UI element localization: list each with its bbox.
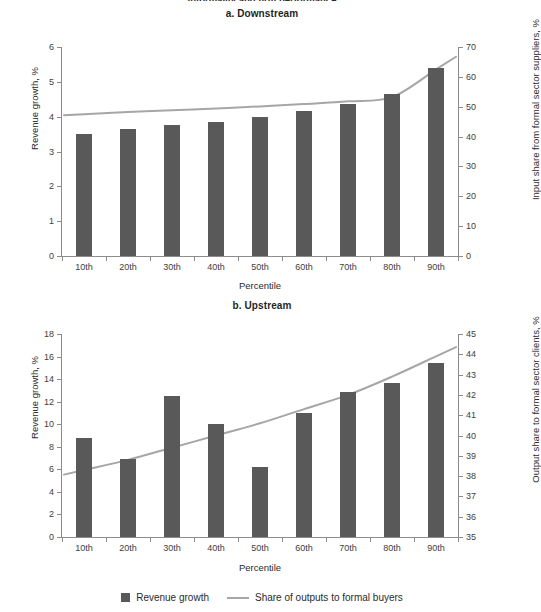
panel-upstream: b. Upstream Revenue growth, % Output sha… xyxy=(0,300,524,592)
panel-b-y2-tick-label: 43 xyxy=(466,370,476,380)
panel-a-x-tick-label: 20th xyxy=(119,262,137,272)
bar xyxy=(340,392,356,537)
panel-a-y-tick-label: 6 xyxy=(49,42,54,52)
panel-b-x-tick-label: 10th xyxy=(75,543,93,553)
panel-a-y2-tick-label: 50 xyxy=(466,102,476,112)
panel-a-x-tick xyxy=(62,257,63,261)
panel-b-y-tick xyxy=(57,469,61,470)
panel-b-x-tick xyxy=(414,538,415,542)
bar-swatch-icon xyxy=(121,593,130,602)
panel-b-y-tick-label: 16 xyxy=(44,352,54,362)
panel-a-x-tick xyxy=(150,257,151,261)
panel-a-x-axis xyxy=(61,256,459,257)
figure-legend: Revenue growth Share of outputs to forma… xyxy=(0,592,524,603)
panel-a-y2-tick xyxy=(459,166,463,167)
bar xyxy=(252,467,268,537)
panel-b-y2-tick xyxy=(459,517,463,518)
panel-b-y2-tick-label: 39 xyxy=(466,451,476,461)
panel-b-y2-tick xyxy=(459,436,463,437)
bar xyxy=(384,383,400,538)
panel-a-y-tick-label: 5 xyxy=(49,77,54,87)
panel-a-x-tick-label: 70th xyxy=(339,262,357,272)
panel-b-x-tick-label: 20th xyxy=(119,543,137,553)
panel-b-y-tick-label: 12 xyxy=(44,397,54,407)
panel-a-title: a. Downstream xyxy=(0,8,524,19)
bar xyxy=(164,125,180,256)
panel-b-y-tick xyxy=(57,402,61,403)
panel-b-x-tick xyxy=(458,538,459,542)
panel-b-y-tick xyxy=(57,514,61,515)
panel-a-y-tick xyxy=(57,47,61,48)
bar xyxy=(208,122,224,256)
panel-a-y2-axis-title: Input share from formal sector suppliers… xyxy=(530,3,541,217)
panel-b-y-tick xyxy=(57,424,61,425)
line-swatch-icon xyxy=(227,597,249,599)
bar xyxy=(76,134,92,256)
panel-a-y2-tick-label: 10 xyxy=(466,221,476,231)
bar xyxy=(164,396,180,537)
panel-a-y2-tick-label: 60 xyxy=(466,72,476,82)
panel-a-y2-tick-label: 30 xyxy=(466,161,476,171)
panel-a-x-axis-title: Percentile xyxy=(62,280,458,291)
bar xyxy=(76,438,92,537)
panel-b-y2-tick-label: 40 xyxy=(466,431,476,441)
panel-a-x-tick xyxy=(370,257,371,261)
panel-b-y-tick-label: 2 xyxy=(49,509,54,519)
panel-a-y-tick-label: 2 xyxy=(49,181,54,191)
panel-a-x-tick-label: 30th xyxy=(163,262,181,272)
panel-b-y2-tick-label: 42 xyxy=(466,390,476,400)
panel-b-x-tick xyxy=(326,538,327,542)
panel-b-y2-tick xyxy=(459,354,463,355)
panel-b-y2-tick-label: 35 xyxy=(466,532,476,542)
bar xyxy=(120,129,136,256)
panel-a-y2-tick-label: 20 xyxy=(466,191,476,201)
panel-b-y2-tick-label: 41 xyxy=(466,410,476,420)
bar xyxy=(384,94,400,256)
panel-a-x-tick xyxy=(194,257,195,261)
panel-a-y-tick xyxy=(57,82,61,83)
panel-b-y2-tick-label: 37 xyxy=(466,491,476,501)
panel-a-y-tick xyxy=(57,221,61,222)
panel-a-y2-tick xyxy=(459,256,463,257)
panel-b-y2-tick xyxy=(459,537,463,538)
panel-a-x-tick xyxy=(106,257,107,261)
panel-a-y-tick xyxy=(57,186,61,187)
panel-a-y-tick-label: 0 xyxy=(49,251,54,261)
panel-a-x-tick-label: 40th xyxy=(207,262,225,272)
panel-a-y-tick-label: 3 xyxy=(49,147,54,157)
panel-b-x-tick xyxy=(238,538,239,542)
panel-a-y2-tick xyxy=(459,107,463,108)
clipped-figure-title: Informality and firm performance xyxy=(0,0,524,1)
legend-label-revenue-growth: Revenue growth xyxy=(136,592,209,603)
bar xyxy=(296,413,312,537)
panel-b-y2-tick-label: 45 xyxy=(466,329,476,339)
panel-b-x-tick xyxy=(282,538,283,542)
panel-b-x-tick xyxy=(62,538,63,542)
panel-b-y-tick-label: 18 xyxy=(44,329,54,339)
panel-b-x-tick-label: 50th xyxy=(251,543,269,553)
panel-a-y-tick xyxy=(57,152,61,153)
panel-a-y-axis-title: Revenue growth, % xyxy=(29,29,40,189)
panel-b-x-tick xyxy=(150,538,151,542)
panel-b-y-tick-label: 8 xyxy=(49,442,54,452)
panel-b-y2-tick xyxy=(459,476,463,477)
panel-b-y2-tick xyxy=(459,496,463,497)
panel-a-y2-tick xyxy=(459,196,463,197)
panel-b-y-tick-label: 0 xyxy=(49,532,54,542)
panel-downstream: a. Downstream Revenue growth, % Input sh… xyxy=(0,8,524,300)
panel-a-y2-tick xyxy=(459,226,463,227)
legend-item-formal-share: Share of outputs to formal buyers xyxy=(227,592,403,603)
panel-b-y2-tick xyxy=(459,415,463,416)
panel-a-x-tick xyxy=(458,257,459,261)
bar xyxy=(428,68,444,256)
panel-b-y-tick xyxy=(57,379,61,380)
panel-b-x-tick-label: 80th xyxy=(383,543,401,553)
bar xyxy=(208,424,224,537)
panel-a-x-tick xyxy=(326,257,327,261)
panel-b-x-tick xyxy=(194,538,195,542)
panel-b-y2-tick xyxy=(459,456,463,457)
panel-a-x-tick-label: 60th xyxy=(295,262,313,272)
panel-b-y-tick xyxy=(57,357,61,358)
panel-b-y-tick xyxy=(57,447,61,448)
panel-a-y2-tick xyxy=(459,47,463,48)
